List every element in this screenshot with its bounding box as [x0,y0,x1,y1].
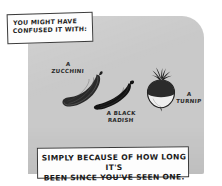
caption-box: SIMPLY BECAUSE OF HOW LONG IT'S BEEN SIN… [37,146,189,178]
comic-panel-image: A ZUCCHINI A BLACK RADISH A TURNIP YOU M… [0,0,222,186]
speech-bubble-text: YOU MIGHT HAVE CONFUSED IT WITH: [13,17,91,36]
veg-label-zucchini: A ZUCCHINI [44,61,93,74]
caption-text: SIMPLY BECAUSE OF HOW LONG IT'S BEEN SIN… [38,152,190,183]
veg-label-turnip: A TURNIP [172,91,207,104]
veg-label-black-radish: A BLACK RADISH [96,110,147,123]
turnip-icon [141,66,181,112]
black-radish-icon [92,79,138,112]
speech-bubble: YOU MIGHT HAVE CONFUSED IT WITH: [7,12,94,44]
